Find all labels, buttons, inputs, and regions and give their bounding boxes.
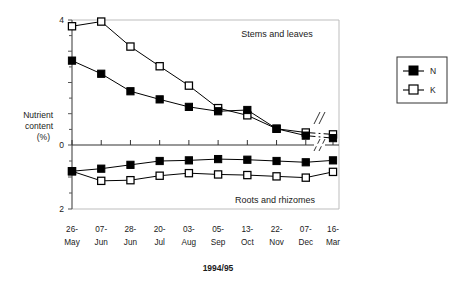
data-point-k-roots-6 [244,171,251,178]
legend-label-k: K [430,85,436,95]
data-point-k-roots-1 [98,177,105,184]
data-point-n-stems-8 [302,132,309,139]
x-tick-label-day-3: 20- [154,225,166,234]
data-point-n-stems-6 [244,106,251,113]
data-point-n-roots-9 [329,157,336,164]
data-point-n-roots-3 [156,157,163,164]
x-tick-label-day-5: 05- [212,225,224,234]
data-point-n-roots-2 [127,161,134,168]
data-point-k-stems-4 [185,82,192,89]
x-tick-label-day-7: 22- [271,225,283,234]
y-tick-label-4: 4 [59,15,64,25]
data-point-k-stems-1 [98,18,105,25]
x-tick-label-month-0: May [64,238,80,247]
y-axis-title-line1: Nutrient [23,110,53,120]
chart-svg: 4 0 2 Nutrient content (%) 26-May07-Jun2… [0,0,457,286]
nutrient-content-chart: 4 0 2 Nutrient content (%) 26-May07-Jun2… [0,0,457,286]
x-tick-label-month-7: Nov [269,238,284,247]
legend-box [397,57,447,103]
legend-marker-open-square [409,85,418,94]
data-point-k-stems-0 [68,23,75,30]
y-axis-title-line2: content [25,121,54,131]
data-point-n-stems-7 [273,125,280,132]
legend-marker-filled-square [409,66,418,75]
x-tick-label-day-8: 07- [300,225,312,234]
x-tick-label-month-4: Aug [182,238,197,247]
x-tick-label-day-9: 16- [327,225,339,234]
panel-label-stems-and-leaves: Stems and leaves [241,29,313,39]
legend[interactable]: N K [397,57,447,103]
data-point-k-roots-2 [127,177,134,184]
data-point-n-roots-0 [68,168,75,175]
data-point-n-stems-3 [156,96,163,103]
data-point-k-roots-3 [156,172,163,179]
data-point-n-roots-6 [244,156,251,163]
x-tick-label-day-1: 07- [95,225,107,234]
legend-label-n: N [430,66,436,76]
x-tick-label-month-1: Jun [95,238,109,247]
data-point-k-roots-9 [329,168,336,175]
data-point-n-roots-8 [302,159,309,166]
x-tick-label-month-5: Sep [211,238,226,247]
data-point-n-roots-7 [273,157,280,164]
y-axis-title-line3: (%) [37,132,50,142]
x-tick-label-month-3: Jul [154,238,165,247]
x-tick-label-day-4: 03- [183,225,195,234]
data-point-n-stems-9 [329,135,336,142]
data-point-n-stems-0 [68,57,75,64]
data-point-n-stems-5 [215,108,222,115]
x-tick-label-day-6: 13- [241,225,253,234]
x-tick-label-month-9: Mar [326,238,340,247]
panel-label-roots-and-rhizomes: Roots and rhizomes [235,195,316,205]
x-tick-label-day-2: 28- [125,225,137,234]
x-tick-label-day-0: 26- [66,225,78,234]
data-point-k-stems-3 [156,63,163,70]
y-tick-label-2: 2 [59,204,64,214]
data-point-n-roots-4 [185,157,192,164]
data-point-k-roots-7 [273,173,280,180]
x-tick-label-month-6: Oct [241,238,254,247]
data-point-k-stems-2 [127,43,134,50]
data-point-n-roots-5 [215,155,222,162]
y-tick-label-0: 0 [59,140,64,150]
data-point-n-roots-1 [98,165,105,172]
data-point-k-roots-5 [215,171,222,178]
data-point-n-stems-2 [127,88,134,95]
data-point-n-stems-4 [185,103,192,110]
data-point-k-roots-8 [302,174,309,181]
x-tick-label-month-8: Dec [298,238,313,247]
x-axis-title: 1994/95 [203,263,234,273]
data-point-n-stems-1 [98,70,105,77]
x-tick-label-month-2: Jun [124,238,138,247]
data-point-k-roots-4 [185,170,192,177]
